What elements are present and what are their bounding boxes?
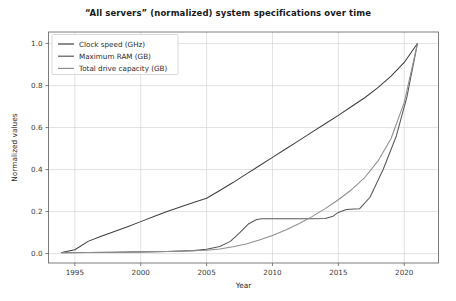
xtick-label: 2020 <box>395 268 414 277</box>
ytick-label: 0.2 <box>31 207 42 216</box>
xtick-label: 1995 <box>66 268 84 277</box>
xtick-label: 2010 <box>263 268 282 277</box>
xtick-label: 2005 <box>197 268 215 277</box>
plot-area: 1995200020052010201520200.00.20.40.60.81… <box>0 0 456 301</box>
xtick-label: 2000 <box>132 268 151 277</box>
series-line-2 <box>62 44 418 253</box>
xtick-label: 2015 <box>329 268 347 277</box>
ytick-label: 1.0 <box>31 39 43 48</box>
legend-label-3: Total drive capacity (GB) <box>78 64 167 73</box>
ytick-label: 0.6 <box>31 123 43 132</box>
legend-label-2: Maximum RAM (GB) <box>79 52 151 61</box>
ytick-label: 0.4 <box>31 165 43 174</box>
y-axis-label: Normalized values <box>10 113 19 181</box>
ytick-label: 0.8 <box>31 81 43 90</box>
series-line-3 <box>62 44 418 253</box>
x-axis-label: Year <box>235 281 253 290</box>
series-line-1 <box>62 44 418 253</box>
legend-label-1: Clock speed (GHz) <box>79 40 145 49</box>
ytick-label: 0.0 <box>31 249 43 258</box>
figure-canvas: “All servers” (normalized) system specif… <box>0 0 456 301</box>
